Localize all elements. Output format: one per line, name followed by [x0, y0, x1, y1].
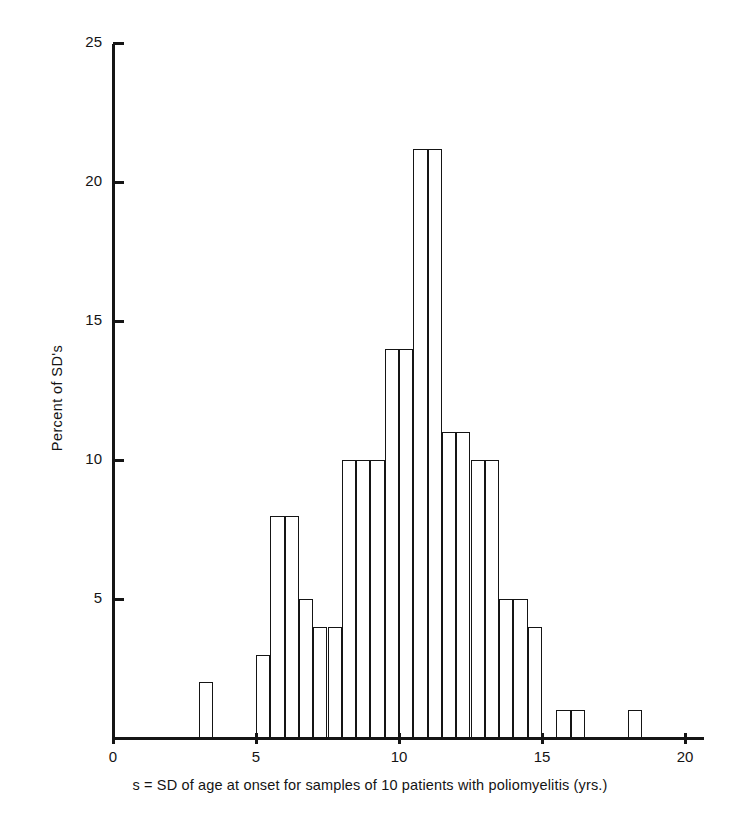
histogram-bar — [385, 349, 399, 738]
histogram-bar — [428, 149, 442, 738]
y-tick-5 — [113, 598, 124, 601]
histogram-bar — [356, 460, 370, 738]
histogram-bar — [513, 599, 527, 738]
y-tick-label-25: 25 — [62, 33, 102, 50]
histogram-bar — [313, 627, 327, 738]
histogram-bar — [328, 627, 342, 738]
plot-area: 510152025 05101520 Percent of SD's s = S… — [0, 0, 740, 830]
histogram-bar — [299, 599, 313, 738]
histogram-bar — [442, 432, 456, 738]
y-tick-label-5: 5 — [62, 589, 102, 606]
histogram-bar — [499, 599, 513, 738]
y-axis-line — [112, 44, 115, 740]
x-axis-caption: s = SD of age at onset for samples of 10… — [0, 777, 740, 793]
y-tick-20 — [113, 181, 124, 184]
x-tick-20 — [684, 733, 687, 744]
histogram-bar — [485, 460, 499, 738]
y-tick-label-10: 10 — [62, 450, 102, 467]
y-tick-10 — [113, 459, 124, 462]
histogram-bar — [471, 460, 485, 738]
y-tick-label-15: 15 — [62, 311, 102, 328]
x-tick-label-5: 5 — [236, 748, 276, 765]
y-tick-25 — [113, 42, 124, 45]
histogram-bar — [256, 655, 270, 738]
x-tick-label-0: 0 — [93, 748, 133, 765]
histogram-bar — [270, 516, 284, 738]
histogram-figure: 510152025 05101520 Percent of SD's s = S… — [0, 0, 740, 830]
histogram-bar — [199, 682, 213, 738]
histogram-bar — [399, 349, 413, 738]
histogram-bar — [556, 710, 570, 738]
x-tick-label-10: 10 — [379, 748, 419, 765]
histogram-bar — [370, 460, 384, 738]
y-axis-title: Percent of SD's — [49, 318, 65, 478]
histogram-bar — [571, 710, 585, 738]
histogram-bar — [456, 432, 470, 738]
x-tick-label-20: 20 — [665, 748, 705, 765]
histogram-bar — [528, 627, 542, 738]
histogram-bar — [628, 710, 642, 738]
histogram-bar — [285, 516, 299, 738]
y-tick-15 — [113, 320, 124, 323]
y-tick-label-20: 20 — [62, 172, 102, 189]
x-tick-label-15: 15 — [522, 748, 562, 765]
histogram-bar — [342, 460, 356, 738]
histogram-bar — [413, 149, 427, 738]
x-tick-0 — [112, 733, 115, 744]
